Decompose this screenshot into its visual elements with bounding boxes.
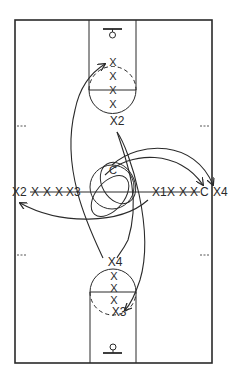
coach-c-right: C xyxy=(200,185,209,199)
player-x: X xyxy=(110,270,118,282)
player-x1-right: X1 xyxy=(152,185,167,199)
player-x3-bottom: X3 xyxy=(112,305,127,319)
bottom-lane-players: X4 X X X X3 xyxy=(108,255,127,319)
player-x: X xyxy=(109,70,117,82)
bottom-basket xyxy=(103,344,122,353)
player-x: X xyxy=(31,185,39,199)
player-x: X xyxy=(109,84,117,96)
arrow-to-c-right-1 xyxy=(105,157,203,185)
player-x3-left: X3 xyxy=(66,185,81,199)
player-x: X xyxy=(109,56,117,68)
player-x: X xyxy=(55,185,63,199)
top-lane-players: X X X X X2 xyxy=(109,56,124,128)
player-x: X xyxy=(167,185,175,199)
right-line-players: X1 X X X C X4 xyxy=(152,185,228,199)
player-x: X xyxy=(179,185,187,199)
arrow-x2-down xyxy=(117,132,133,258)
player-x4-bottom: X4 xyxy=(108,255,123,269)
arrow-to-x2-left xyxy=(20,200,148,219)
player-x4-right: X4 xyxy=(213,185,228,199)
top-basket xyxy=(103,29,122,38)
player-x2-left: X2 xyxy=(12,185,27,199)
basketball-court-diagram: X X X X X2 X4 X X X X3 C X2 X X X X3 X1 … xyxy=(0,0,235,380)
player-x: X xyxy=(190,185,198,199)
left-line-players: X2 X X X X3 xyxy=(12,185,81,199)
arrow-to-top-lane xyxy=(71,64,105,258)
player-x2-top: X2 xyxy=(110,114,125,128)
center-coach-label: C xyxy=(109,164,117,176)
player-x: X xyxy=(110,282,118,294)
player-x: X xyxy=(43,185,51,199)
player-x: X xyxy=(109,98,117,110)
